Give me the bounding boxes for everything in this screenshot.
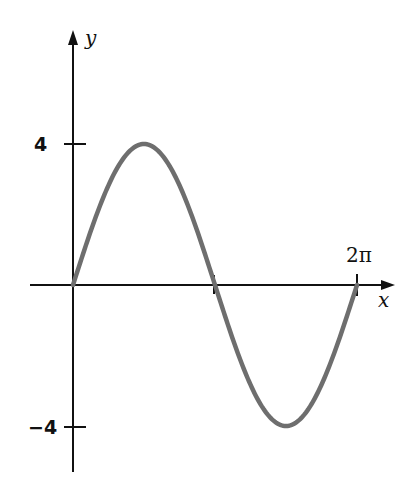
y-tick-label-neg4: −4 — [28, 416, 57, 438]
x-axis-label: x — [378, 288, 389, 312]
sine-chart: y x 4 −4 2π — [0, 0, 418, 497]
x-tick-label-2pi: 2π — [346, 243, 372, 267]
y-axis-arrow-icon — [68, 30, 78, 45]
y-axis-label: y — [84, 26, 97, 50]
y-tick-label-4: 4 — [34, 133, 47, 155]
